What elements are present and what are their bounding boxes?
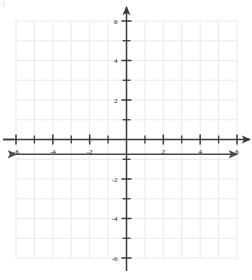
axis-lines	[3, 7, 250, 271]
y-tick-label: 6	[114, 18, 118, 26]
y-tick-label: 2	[114, 97, 118, 105]
y-tick-label: -4	[112, 215, 118, 223]
y-tick-label: -6	[112, 255, 118, 263]
y-tick-label: 4	[114, 57, 118, 65]
y-tick-label: -2	[112, 176, 118, 184]
graph-canvas: ) -6-4-2246642-2-4-6	[0, 0, 252, 280]
coordinate-plane-plot: -6-4-2246642-2-4-6	[0, 0, 252, 280]
